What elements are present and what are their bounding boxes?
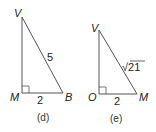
vertex-m-e: M [139,91,149,103]
right-angle-marker-d [22,86,29,93]
right-angle-marker-e [99,87,106,94]
caption-e: (e) [110,113,122,124]
vertex-b-d: B [65,91,72,103]
vertex-o-e: O [88,91,97,103]
vertex-m-d: M [10,91,20,103]
hypotenuse-label-e: √21 [122,61,140,73]
caption-d: (d) [37,112,49,123]
base-label-e: 2 [114,95,120,107]
hypotenuse-label-d: 5 [47,51,53,63]
base-label-d: 2 [37,94,43,106]
triangle-d: V M B 5 2 (d) [10,7,72,123]
triangle-e: V O M √21 2 (e) [88,22,149,124]
triangle-d-shape [22,17,63,93]
triangles-diagram: V M B 5 2 (d) V O M √21 2 (e) [0,0,156,132]
